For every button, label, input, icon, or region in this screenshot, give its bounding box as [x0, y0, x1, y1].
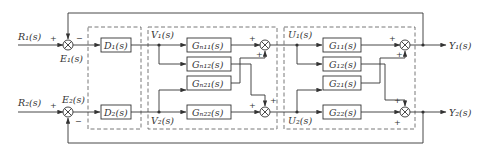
- e1-minus-sign: −: [76, 34, 83, 43]
- e1-plus-sign: +: [50, 34, 57, 43]
- d1-label: D₁(s): [103, 40, 128, 51]
- gn12-label: Gₙ₁₂(s): [192, 59, 224, 70]
- g11-label: G₁₁(s): [329, 40, 357, 51]
- g21-label: G₂₁(s): [329, 78, 357, 89]
- e2-label: E₂(s): [61, 94, 85, 105]
- gn11-label: Gₙ₁₁(s): [192, 40, 224, 51]
- gn21-label: Gₙ₂₁(s): [192, 78, 224, 89]
- r2-label: R₂(s): [17, 97, 42, 108]
- y2-branch-node: [421, 110, 424, 113]
- y2-label: Y₂(s): [449, 107, 472, 118]
- g22-label: G₂₂(s): [329, 107, 357, 118]
- e1-label: E₁(s): [59, 53, 83, 64]
- block-diagram: R₁(s) + − E₁(s) D₁(s) V₁(s) Gₙ₁₁(s) Gₙ₁₂…: [0, 0, 486, 154]
- e2-plus-sign: +: [50, 101, 57, 110]
- d2-label: D₂(s): [103, 107, 128, 118]
- u1-label: U₁(s): [288, 29, 312, 40]
- summing-junction-e1: [63, 40, 73, 50]
- u2-label: U₂(s): [288, 115, 312, 126]
- u1-plus-sign-left: +: [249, 34, 256, 43]
- y2-plus-sign-left: +: [394, 118, 401, 127]
- e2-minus-sign: −: [75, 117, 82, 126]
- gn22-label: Gₙ₂₂(s): [192, 107, 224, 118]
- y1-plus-sign-left: +: [389, 34, 396, 43]
- y2-plus-sign-top: +: [394, 96, 401, 105]
- g12-label: G₁₂(s): [329, 59, 357, 70]
- summing-junction-y2: [400, 107, 410, 117]
- summing-junction-y1: [400, 40, 410, 50]
- summing-junction-e2: [63, 107, 73, 117]
- v2-label: V₂(s): [151, 115, 174, 126]
- y1-label: Y₁(s): [449, 40, 472, 51]
- summing-junction-u2: [260, 107, 270, 117]
- v1-label: V₁(s): [151, 29, 174, 40]
- r1-label: R₁(s): [17, 31, 42, 42]
- summing-junction-u1: [260, 40, 270, 50]
- u2-plus-sign-left: +: [249, 101, 256, 110]
- y1-branch-node: [421, 43, 424, 46]
- u2-plus-sign-top: +: [270, 96, 277, 105]
